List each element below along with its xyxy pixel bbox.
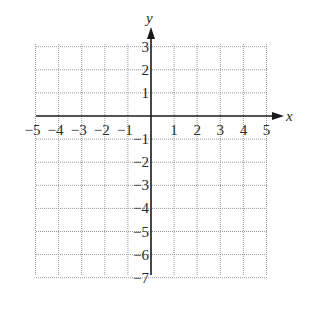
y-tick-label: −5: [133, 224, 149, 240]
axes: x y: [36, 10, 293, 275]
x-tick-label: 5: [263, 122, 271, 138]
y-axis-arrow-icon: [147, 27, 155, 39]
x-tick-label: 3: [217, 122, 225, 138]
y-tick-label: −3: [133, 177, 149, 193]
x-tick-label: −5: [25, 122, 41, 138]
y-tick-label: −4: [133, 200, 149, 216]
y-tick-label: 3: [142, 39, 150, 55]
y-tick-label: −7: [133, 270, 149, 286]
y-tick-labels: 321−1−2−3−4−5−6−7: [133, 39, 149, 286]
y-tick-label: 1: [142, 85, 150, 101]
y-tick-label: −2: [133, 154, 149, 170]
x-axis-name: x: [285, 108, 293, 124]
y-tick-label: −6: [133, 247, 149, 263]
x-tick-label: −4: [48, 122, 64, 138]
x-tick-label: 4: [240, 122, 248, 138]
x-tick-label: −2: [94, 122, 110, 138]
y-axis-name: y: [144, 10, 153, 26]
coordinate-plane: x y −5−4−3−2−112345 321−1−2−3−4−5−6−7: [0, 0, 312, 312]
x-tick-label: 2: [193, 122, 201, 138]
x-tick-label: −1: [117, 122, 133, 138]
y-tick-label: 2: [142, 62, 150, 78]
y-tick-label: −1: [133, 131, 149, 147]
x-tick-label: 1: [170, 122, 178, 138]
x-axis-arrow-icon: [272, 112, 284, 120]
x-tick-label: −3: [71, 122, 87, 138]
